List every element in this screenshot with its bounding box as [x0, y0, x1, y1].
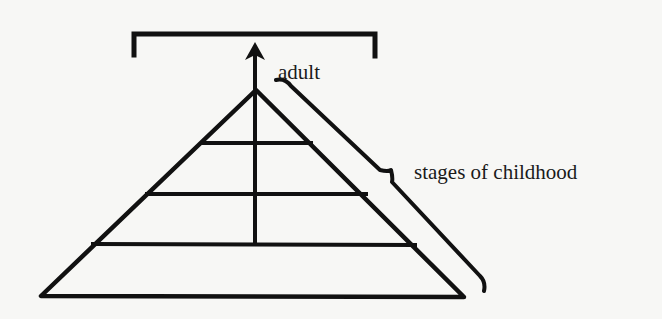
stages-of-childhood-label: stages of childhood [414, 162, 577, 183]
stages-brace [276, 80, 485, 291]
adult-label: adult [278, 62, 320, 83]
